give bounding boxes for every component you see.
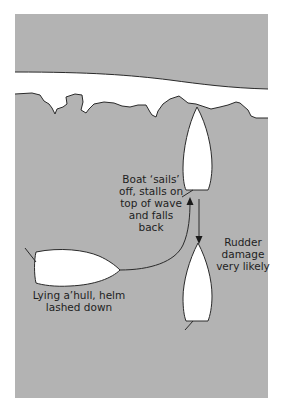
label-line: very likely (211, 260, 275, 272)
label-line: top of wave (104, 197, 198, 209)
upper-wave-band (15, 14, 268, 89)
label-line: damage (211, 248, 275, 260)
label-line: off, stalls on (104, 185, 198, 197)
label-line: Lying a’hull, helm (24, 289, 134, 301)
label-line: lashed down (24, 301, 134, 313)
label-lying-ahull: Lying a’hull, helm lashed down (24, 289, 134, 313)
label-sails-off: Boat ‘sails’ off, stalls on top of wave … (104, 173, 198, 233)
label-rudder-damage: Rudder damage very likely (211, 236, 275, 272)
label-line: back (104, 221, 198, 233)
label-line: Rudder (211, 236, 275, 248)
label-line: and falls (104, 209, 198, 221)
label-line: Boat ‘sails’ (104, 173, 198, 185)
